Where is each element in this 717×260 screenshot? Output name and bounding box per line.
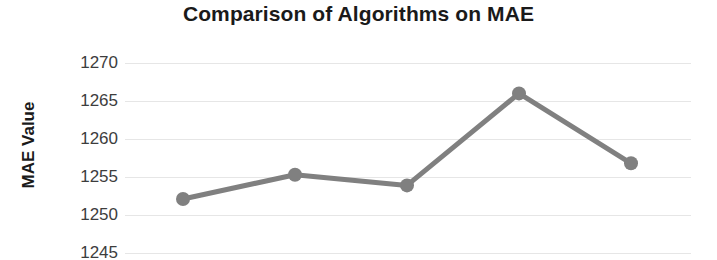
y-axis-title: MAE Value — [19, 102, 39, 189]
data-point-marker — [400, 178, 414, 192]
y-tick-label: 1255 — [46, 168, 118, 185]
plot-area — [125, 0, 691, 260]
y-tick-label: 1260 — [46, 130, 118, 147]
y-tick-label: 1265 — [46, 92, 118, 109]
series-markers — [176, 86, 638, 206]
y-axis-tick-labels: 127012651260125512501245 — [46, 0, 118, 260]
data-point-marker — [288, 168, 302, 182]
y-axis-title-container: MAE Value — [14, 70, 44, 220]
data-point-marker — [512, 86, 526, 100]
data-point-marker — [176, 192, 190, 206]
y-tick-label: 1250 — [46, 206, 118, 223]
y-tick-label: 1245 — [46, 244, 118, 260]
y-tick-label: 1270 — [46, 54, 118, 71]
chart-screenshot: Comparison of Algorithms on MAE MAE Valu… — [0, 0, 717, 260]
series-line-chart — [125, 0, 691, 260]
data-point-marker — [624, 156, 638, 170]
